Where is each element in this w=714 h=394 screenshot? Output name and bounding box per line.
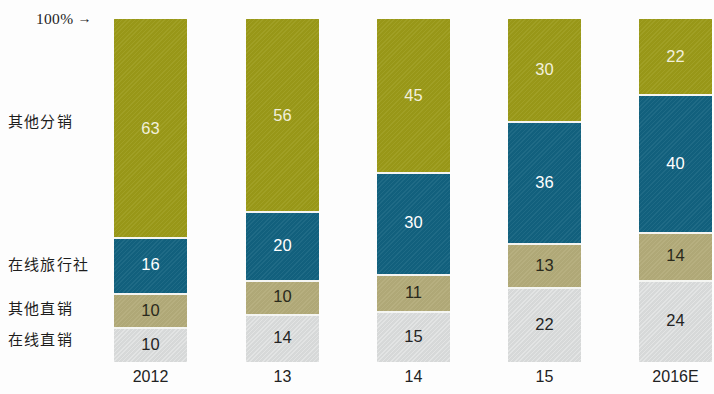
bar-segment-value: 16 (141, 255, 159, 274)
segment-divider (377, 274, 450, 276)
bar-segment-other-distribution: 22 (639, 19, 712, 94)
bar-segment-online-travel-agency: 16 (114, 237, 187, 292)
bar-segment-other-distribution: 63 (114, 19, 187, 237)
bar-segment-value: 30 (404, 213, 422, 232)
segment-divider (639, 94, 712, 96)
x-axis-tick-13: 13 (246, 368, 319, 386)
bar-segment-other-direct: 10 (114, 293, 187, 328)
bar-segment-online-direct: 15 (377, 311, 450, 362)
bar-14: 45301115 (377, 19, 450, 362)
bar-segment-other-direct: 11 (377, 274, 450, 311)
bar-segment-value: 15 (404, 327, 422, 346)
bar-segment-value: 22 (535, 315, 553, 334)
bar-segment-value: 10 (273, 287, 291, 306)
segment-divider (246, 314, 319, 316)
bar-segment-value: 13 (535, 256, 553, 275)
bar-segment-online-travel-agency: 36 (508, 121, 581, 243)
bar-segment-online-direct: 14 (246, 314, 319, 362)
bar-segment-value: 24 (666, 311, 684, 330)
segment-divider (114, 237, 187, 239)
x-axis-tick-15: 15 (508, 368, 581, 386)
bar-segment-value: 20 (273, 236, 291, 255)
segment-divider (508, 121, 581, 123)
segment-divider (114, 293, 187, 295)
bar-segment-value: 30 (535, 60, 553, 79)
bar-segment-online-direct: 24 (639, 280, 712, 362)
bar-segment-online-travel-agency: 30 (377, 172, 450, 274)
bar-2016E: 22401424 (639, 19, 712, 362)
bar-segment-value: 10 (141, 335, 159, 354)
bar-segment-online-travel-agency: 40 (639, 94, 712, 231)
segment-divider (508, 287, 581, 289)
bar-segment-online-travel-agency: 20 (246, 211, 319, 280)
bar-segment-value: 56 (273, 106, 291, 125)
bar-segment-other-distribution: 45 (377, 19, 450, 172)
bar-segment-other-direct: 13 (508, 243, 581, 287)
plot-area: 6316101020125620101413453011151430361322… (0, 0, 714, 394)
bar-segment-other-direct: 10 (246, 280, 319, 314)
segment-divider (377, 311, 450, 313)
bar-segment-online-direct: 22 (508, 287, 581, 362)
bar-segment-other-distribution: 30 (508, 19, 581, 121)
bar-segment-value: 36 (535, 173, 553, 192)
stacked-bar-chart: 100%→ 其他分销 在线旅行社 其他直销 在线直销 6316101020125… (0, 0, 714, 394)
bar-segment-value: 22 (666, 47, 684, 66)
bar-segment-online-direct: 10 (114, 327, 187, 362)
segment-divider (639, 232, 712, 234)
bar-segment-value: 63 (141, 119, 159, 138)
bar-segment-value: 14 (666, 246, 684, 265)
bar-segment-value: 10 (141, 301, 159, 320)
segment-divider (114, 327, 187, 329)
bar-segment-value: 14 (273, 328, 291, 347)
bar-segment-value: 40 (666, 154, 684, 173)
x-axis-tick-2012: 2012 (114, 368, 187, 386)
segment-divider (246, 280, 319, 282)
x-axis-tick-14: 14 (377, 368, 450, 386)
bar-13: 56201014 (246, 19, 319, 362)
x-axis-tick-2016E: 2016E (639, 368, 712, 386)
segment-divider (639, 280, 712, 282)
segment-divider (246, 211, 319, 213)
bar-segment-value: 45 (404, 86, 422, 105)
bar-2012: 63161010 (114, 19, 187, 362)
bar-segment-value: 11 (405, 283, 422, 302)
segment-divider (377, 172, 450, 174)
bar-segment-other-distribution: 56 (246, 19, 319, 211)
bar-segment-other-direct: 14 (639, 232, 712, 280)
segment-divider (508, 243, 581, 245)
bar-15: 30361322 (508, 19, 581, 362)
